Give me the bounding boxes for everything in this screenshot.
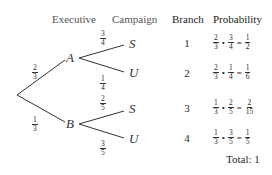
node-B-U: U <box>129 131 138 147</box>
prob-A-U: 1 4 <box>100 75 106 92</box>
node-A: A <box>66 50 74 66</box>
branch-B-U <box>79 124 124 138</box>
header-probability: Probability <box>213 13 262 25</box>
node-A-U: U <box>129 65 138 81</box>
prob-B-S: 2 5 <box>100 95 106 112</box>
prob-root-B: 1 3 <box>32 116 38 133</box>
branch-root-B <box>17 95 65 122</box>
branch-A-U <box>79 58 124 72</box>
branch-root-A <box>17 60 65 95</box>
probability-row-1: 23 • 34 = 12 <box>213 34 250 51</box>
prob-root-A: 2 3 <box>32 64 38 81</box>
node-B: B <box>66 116 74 132</box>
branch-number-1: 1 <box>180 37 194 49</box>
branch-number-4: 4 <box>180 132 194 144</box>
node-B-S: S <box>129 101 136 117</box>
total-label: Total: 1 <box>226 153 260 165</box>
branch-number-2: 2 <box>180 67 194 79</box>
header-branch: Branch <box>172 13 204 25</box>
branch-number-3: 3 <box>180 102 194 114</box>
branch-B-S <box>79 111 124 124</box>
tree-branches <box>0 0 272 175</box>
probability-row-3: 13 • 25 = 215 <box>213 99 254 116</box>
header-executive: Executive <box>52 13 96 25</box>
probability-row-4: 13 • 35 = 15 <box>213 129 250 146</box>
prob-A-S: 3 4 <box>100 30 106 47</box>
prob-B-U: 3 5 <box>100 140 106 157</box>
probability-row-2: 23 • 14 = 16 <box>213 64 250 81</box>
node-A-S: S <box>129 36 136 52</box>
header-campaign: Campaign <box>112 13 157 25</box>
